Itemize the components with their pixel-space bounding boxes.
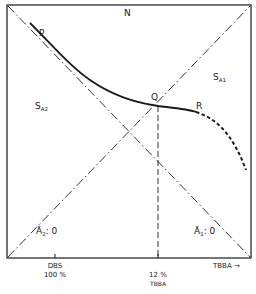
a1-zero-label: Ā1: 0: [194, 227, 215, 237]
point-label-r: R: [196, 102, 202, 111]
point-label-q: Q: [151, 93, 158, 102]
tick-label-12-line2: TBBA: [141, 281, 175, 287]
region-label-n: N: [124, 9, 131, 18]
x-axis-label: TBBA →: [213, 263, 240, 270]
a2-zero-label: Ā2: 0: [36, 227, 57, 237]
phase-boundary-extrapolation: [196, 112, 246, 170]
region-label-sa1: SA1: [213, 73, 226, 83]
region-label-sa1-sub: A1: [219, 77, 226, 83]
tick-label-dbs-line1: DBS: [38, 263, 72, 270]
tick-label-dbs: DBS 100 %: [38, 263, 72, 279]
a2-zero-label-rest: : 0: [46, 226, 58, 236]
tick-label-dbs-line2: 100 %: [38, 272, 72, 279]
tick-label-12-line1: 12 %: [141, 272, 175, 279]
phase-diagram: [0, 0, 256, 294]
a1-zero-label-rest: : 0: [204, 226, 216, 236]
region-label-sa2: SA2: [35, 102, 48, 112]
tick-label-12-tbba: 12 % TBBA: [141, 272, 175, 287]
phase-boundary-curve: [30, 23, 196, 112]
point-label-p: P: [39, 29, 44, 38]
region-label-sa2-sub: A2: [41, 106, 48, 112]
